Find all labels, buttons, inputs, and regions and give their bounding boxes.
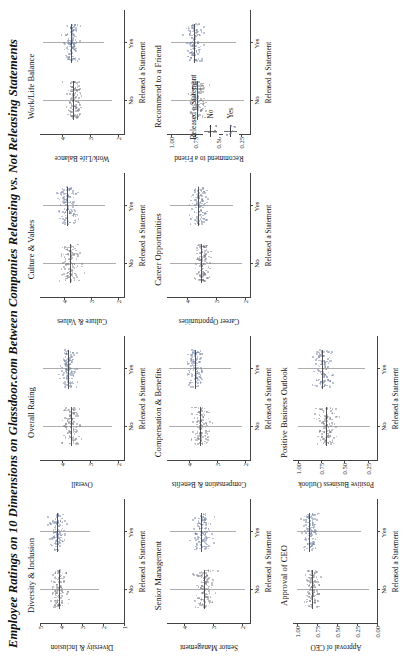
y-axis-label-text: Recommend to a Friend	[174, 154, 243, 162]
y-tick-mark	[298, 460, 299, 463]
plot-area: 54321NoYes	[40, 499, 125, 624]
y-tick-label: 4	[185, 463, 192, 466]
y-tick-label: 4	[59, 463, 66, 466]
y-axis-label-text: Career Opportunities	[179, 317, 239, 325]
point-cloud-yes	[40, 10, 124, 134]
plot-area: 432NoYes	[40, 173, 125, 298]
plot-area: 432NoYes	[167, 336, 252, 461]
panel-title: Work/Life Balance	[26, 8, 36, 165]
y-tick-label: 3	[87, 463, 94, 466]
y-tick-label: 3	[87, 137, 94, 140]
y-tick-label: 0.75	[318, 463, 325, 475]
x-tick-mark	[250, 426, 253, 427]
point-cloud-yes	[293, 336, 377, 460]
y-tick-mark	[217, 460, 218, 463]
y-axis-label-text: Senior Management	[180, 643, 238, 651]
y-tick-label: 0.25	[364, 463, 371, 475]
y-tick-mark	[40, 623, 41, 626]
point-cloud-yes	[40, 336, 124, 460]
y-tick-label: 1.00	[168, 137, 175, 149]
y-tick-mark	[90, 134, 91, 137]
x-tick-label: Yes	[253, 528, 260, 538]
panel-title: Positive Business Outlook	[279, 334, 289, 491]
x-tick-label: No	[253, 422, 260, 430]
y-tick-mark	[337, 623, 338, 626]
x-tick-mark	[124, 531, 127, 532]
panel-title: Senior Management	[153, 497, 163, 654]
x-tick-mark	[377, 426, 380, 427]
rotated-figure-wrapper: Employee Ratings on 10 Dimensions on Gla…	[0, 0, 410, 662]
panel-approval-of-ceo: Approval of CEOApproval of CEO1.000.750.…	[279, 497, 404, 654]
x-tick-label: No	[127, 96, 134, 104]
y-tick-mark	[245, 297, 246, 300]
y-axis-label-text: Positive Business Outlook	[298, 480, 374, 488]
point-cloud-yes	[293, 499, 377, 623]
x-tick-mark	[250, 263, 253, 264]
x-axis-label: Released a Statement	[139, 10, 147, 135]
plot-area: 432NoYes	[40, 336, 125, 461]
x-axis-label: Released a Statement	[139, 173, 147, 298]
point-cloud-yes	[40, 173, 124, 297]
plot-area: 1.000.750.500.250.00NoYes	[293, 499, 378, 624]
x-tick-mark	[124, 426, 127, 427]
y-tick-label: 3	[213, 463, 220, 466]
y-tick-label: 0.50	[334, 626, 341, 638]
median-line	[57, 513, 58, 553]
empty-cell	[279, 171, 404, 328]
x-tick-label: Yes	[253, 365, 260, 375]
x-tick-label: Yes	[127, 365, 134, 375]
median-line	[68, 350, 69, 390]
panel-title: Compensation & Benefits	[153, 334, 163, 491]
y-tick-mark	[189, 460, 190, 463]
panel-title: Career Opportunities	[153, 171, 163, 328]
x-axis-label: Released a Statement	[392, 336, 400, 461]
y-tick-label: 2	[238, 626, 245, 629]
figure-canvas: Employee Ratings on 10 Dimensions on Gla…	[0, 0, 410, 662]
y-tick-mark	[377, 623, 378, 626]
x-tick-mark	[124, 589, 127, 590]
point-cloud-yes	[167, 336, 251, 460]
x-tick-mark	[124, 205, 127, 206]
x-tick-mark	[377, 589, 380, 590]
panel-title: Approval of CEO	[279, 497, 289, 654]
panel-title: Diversity & Inclusion	[26, 497, 36, 654]
x-tick-mark	[250, 42, 253, 43]
x-tick-mark	[377, 368, 380, 369]
x-tick-label: Yes	[127, 39, 134, 49]
x-tick-label: Yes	[253, 202, 260, 212]
y-tick-label: 3	[88, 300, 95, 303]
y-tick-label: 4	[57, 626, 64, 629]
y-axis-label: Career Opportunities	[167, 316, 252, 326]
x-axis-label: Released a Statement	[265, 10, 273, 135]
median-line	[194, 24, 195, 64]
median-line	[309, 513, 310, 553]
y-axis-label-text: Compensation & Benefits	[172, 480, 247, 488]
y-tick-mark	[344, 460, 345, 463]
y-tick-label: 2	[115, 137, 122, 140]
y-axis-label: Senior Management	[167, 642, 252, 652]
x-tick-mark	[124, 100, 127, 101]
y-tick-mark	[297, 623, 298, 626]
legend-item-no[interactable]: No	[203, 75, 219, 140]
plot-area: 432NoYes	[167, 173, 252, 298]
panel-overall-rating: Overall RatingOverall432NoYesReleased a …	[26, 334, 151, 491]
x-axis-label: Released a Statement	[265, 499, 273, 624]
y-tick-label: 2	[115, 463, 122, 466]
legend-label: No	[207, 110, 215, 119]
x-tick-label: Yes	[380, 365, 387, 375]
legend-item-yes[interactable]: Yes	[223, 75, 239, 140]
y-tick-label: 2	[115, 300, 122, 303]
x-tick-label: Yes	[127, 528, 134, 538]
x-tick-mark	[250, 100, 253, 101]
y-tick-mark	[368, 460, 369, 463]
y-tick-label: 4	[61, 300, 68, 303]
x-tick-mark	[124, 42, 127, 43]
x-tick-label: No	[253, 585, 260, 593]
y-tick-mark	[90, 460, 91, 463]
y-tick-mark	[118, 134, 119, 137]
y-tick-mark	[317, 623, 318, 626]
y-axis-label-text: Work/Life Balance	[55, 154, 110, 162]
y-axis-label: Culture & Values	[40, 316, 125, 326]
y-tick-mark	[61, 623, 62, 626]
point-cloud-yes	[167, 173, 251, 297]
